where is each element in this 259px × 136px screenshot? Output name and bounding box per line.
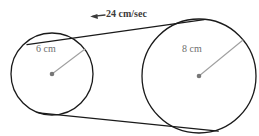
- figure-canvas: [0, 0, 259, 136]
- left-pulley-radius-line: [52, 49, 85, 74]
- right-pulley-radius-label: 8 cm: [182, 44, 202, 54]
- belt-speed-label: 24 cm/sec: [106, 9, 147, 19]
- arrow-left-icon: [90, 14, 105, 19]
- left-pulley-center-dot: [50, 72, 55, 77]
- left-pulley-radius-label: 6 cm: [36, 44, 56, 54]
- pulley-belt-figure: 6 cm 8 cm 24 cm/sec: [0, 0, 259, 136]
- right-pulley-center-dot: [197, 74, 202, 79]
- right-pulley-radius-line: [199, 40, 243, 76]
- belt-lower-tangent-line: [39, 113, 218, 131]
